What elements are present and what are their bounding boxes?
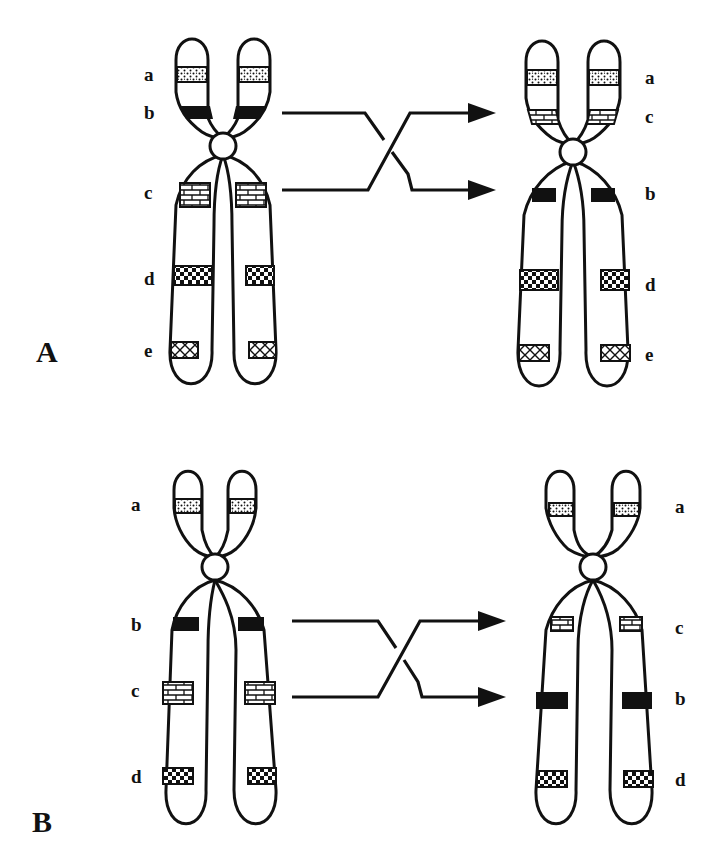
band-d [246, 266, 274, 285]
band-c [163, 682, 193, 704]
chromatid-arm [176, 39, 223, 138]
band-d [248, 768, 276, 784]
panel-b: B a b c d [32, 471, 686, 838]
band-a [175, 499, 201, 513]
band-d [520, 270, 558, 290]
band-a [177, 67, 207, 82]
gene-label: a [645, 67, 655, 88]
gene-label: c [144, 182, 152, 203]
gene-label: d [645, 274, 656, 295]
band-c [245, 682, 275, 704]
centromere [580, 554, 606, 580]
band-e [171, 342, 198, 358]
band-d [163, 768, 193, 784]
chromosome-a-after [518, 41, 630, 386]
arrowhead-icon [468, 103, 496, 123]
band-c [587, 110, 618, 124]
gene-label: d [675, 769, 686, 790]
band-d [174, 266, 212, 285]
band-b [536, 692, 568, 709]
band-b [173, 617, 199, 631]
band-a [239, 67, 269, 82]
panel-label-b: B [32, 805, 52, 838]
gene-label: a [675, 496, 685, 517]
chromosome-a-before [170, 39, 276, 384]
band-b [591, 188, 615, 202]
arrowhead-icon [478, 687, 506, 707]
gene-label: b [645, 183, 656, 204]
panel-a: A a b c d [36, 39, 656, 386]
band-a [614, 503, 639, 516]
chromosome-b-before [163, 471, 276, 824]
chromatid-arm [573, 41, 620, 144]
band-a [549, 503, 573, 516]
chromatid-arm [215, 471, 256, 557]
arrowhead-icon [478, 611, 506, 631]
centromere [202, 554, 228, 580]
gene-label: a [144, 64, 154, 85]
inversion-diagram: A a b c d [0, 0, 720, 847]
gene-label: e [645, 344, 653, 365]
gene-labels-b-after: a c b d [675, 496, 686, 790]
chromatid-arm [526, 41, 573, 144]
band-d [601, 270, 629, 290]
inversion-arrows-a [282, 103, 496, 200]
centromere [560, 139, 586, 165]
band-d [537, 771, 567, 787]
gene-label: c [675, 617, 683, 638]
centromere [210, 133, 236, 159]
chromosome-b-after [536, 471, 653, 824]
gene-label: d [144, 268, 155, 289]
band-a [230, 499, 255, 513]
band-c [528, 110, 559, 124]
gene-label: a [131, 494, 141, 515]
band-c [180, 183, 210, 207]
gene-label: b [675, 688, 686, 709]
band-e [601, 345, 630, 361]
gene-label: d [131, 766, 142, 787]
gene-label: c [131, 680, 139, 701]
chromatid-arm [174, 471, 215, 557]
band-c [620, 617, 642, 631]
band-b [532, 188, 556, 202]
band-e [519, 345, 549, 361]
gene-label: b [131, 614, 142, 635]
gene-labels-b-before: a b c d [131, 494, 142, 787]
gene-label: b [144, 102, 155, 123]
gene-labels-a-after: a c b d e [645, 67, 656, 365]
band-b [238, 617, 264, 631]
inversion-arrows-b [292, 611, 506, 707]
band-e [249, 342, 276, 358]
gene-labels-a-before: a b c d e [144, 64, 155, 361]
band-c [551, 617, 573, 631]
arrowhead-icon [468, 180, 496, 200]
band-b [622, 692, 652, 709]
gene-label: c [645, 106, 653, 127]
band-d [624, 771, 653, 787]
band-c [236, 183, 266, 207]
chromatid-arm [223, 39, 270, 138]
panel-label-a: A [36, 335, 58, 368]
band-a [589, 70, 619, 85]
gene-label: e [144, 340, 152, 361]
band-a [527, 70, 557, 85]
